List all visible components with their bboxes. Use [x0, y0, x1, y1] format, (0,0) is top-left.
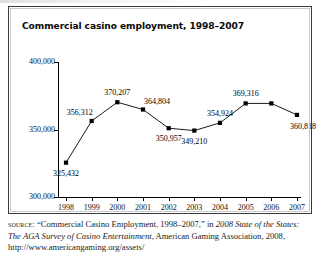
data-point-marker — [192, 128, 196, 132]
data-point-marker — [269, 101, 273, 105]
data-point-label: 370,207 — [104, 88, 130, 97]
data-point-label: 364,804 — [144, 97, 170, 106]
data-point-label: 354,924 — [207, 109, 233, 118]
data-point-marker — [244, 101, 248, 105]
data-point-label: 350,957 — [156, 134, 182, 143]
data-point-marker — [141, 107, 145, 111]
data-point-marker — [90, 119, 94, 123]
source-text-part-1: “Commercial Casino Employment, 1998–2007… — [35, 219, 216, 229]
data-point-marker — [218, 121, 222, 125]
data-point-marker — [64, 161, 68, 165]
data-point-label: 356,312 — [67, 108, 93, 117]
data-point-marker — [295, 113, 299, 117]
data-point-label: 369,316 — [233, 89, 259, 98]
data-point-label: 325,432 — [53, 169, 79, 178]
data-point-label: 349,210 — [181, 137, 207, 146]
source-note: source: “Commercial Casino Employment, 1… — [8, 219, 314, 254]
source-label: source: — [8, 219, 35, 229]
figure-box: Commercial casino employment, 1998–2007 … — [8, 6, 312, 214]
series-line — [9, 7, 313, 215]
chart-plot-area: 300,000350,000400,000 199819992000200120… — [9, 7, 313, 215]
scan-artifact — [0, 0, 321, 3]
data-point-marker — [115, 100, 119, 104]
data-point-label: 360,818 — [290, 122, 316, 131]
data-point-marker — [167, 126, 171, 130]
